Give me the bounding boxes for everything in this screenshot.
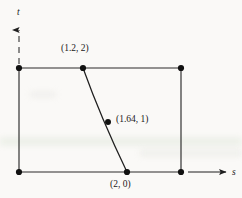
point-label-bottom: (2, 0) — [110, 180, 131, 190]
point-dot-mid — [105, 119, 111, 125]
point-dot-bottom — [124, 169, 130, 175]
s-axis-label: s — [232, 168, 236, 178]
point-label-mid: (1.64, 1) — [116, 115, 148, 125]
point-label-top: (1.2, 2) — [61, 44, 89, 54]
domain-rectangle — [19, 68, 181, 172]
t-axis-label: t — [17, 8, 20, 18]
vertex-dot-bottom-right — [178, 169, 184, 175]
vertex-dot-top-right — [178, 65, 184, 71]
diagram-vector-layer — [0, 0, 242, 198]
rectangle-vertex-dots — [16, 65, 184, 175]
vertex-dot-bottom-left — [16, 169, 22, 175]
figure-canvas: (1.2, 2) (1.64, 1) (2, 0) t s — [0, 0, 242, 198]
vertex-dot-top-left — [16, 65, 22, 71]
point-dot-top — [80, 65, 86, 71]
